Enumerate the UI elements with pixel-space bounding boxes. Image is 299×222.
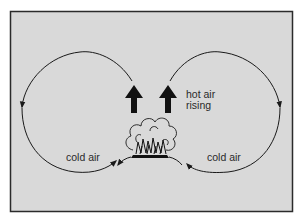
hot-air-label-line2: rising bbox=[186, 100, 215, 111]
cold-air-right-label: cold air bbox=[207, 152, 241, 163]
diagram-canvas bbox=[0, 0, 299, 222]
diagram-frame bbox=[11, 12, 293, 212]
convection-diagram: hot air rising cold air cold air bbox=[0, 0, 299, 222]
hot-air-rising-label: hot air rising bbox=[186, 89, 215, 111]
cold-air-left-label: cold air bbox=[66, 152, 100, 163]
